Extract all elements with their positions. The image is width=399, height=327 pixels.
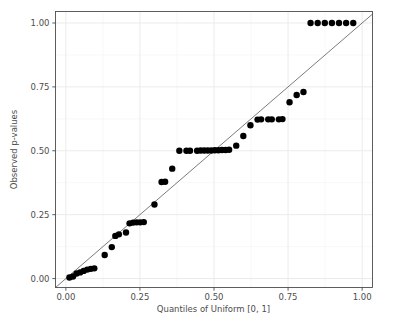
chart-canvas: 0.000.250.500.751.00 0.000.250.500.751.0… [0, 0, 399, 327]
x-tick-label: 0.25 [130, 292, 149, 302]
x-tick-label: 0.75 [279, 292, 298, 302]
x-tick-label: 0.50 [205, 292, 224, 302]
qq-plot-figure: 0.000.250.500.751.00 0.000.250.500.751.0… [0, 0, 399, 327]
y-axis-title: Observed p-values [9, 109, 19, 189]
y-tick-label: 0.25 [31, 210, 50, 220]
x-axis-title: Quantiles of Uniform [0, 1] [157, 304, 270, 314]
y-tick-label: 1.00 [31, 18, 50, 28]
x-tick-label: 0.00 [56, 292, 75, 302]
y-tick-label: 0.75 [31, 82, 50, 92]
x-tick-label: 1.00 [353, 292, 372, 302]
y-tick-label: 0.00 [31, 274, 50, 284]
y-tick-label: 0.50 [31, 146, 50, 156]
